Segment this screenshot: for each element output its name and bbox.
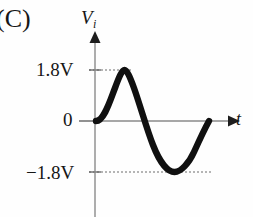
tick-label-positive: 1.8V — [36, 60, 73, 79]
tick-label-zero: 0 — [63, 110, 73, 129]
y-axis-arrowhead — [90, 31, 101, 43]
x-axis-label: t — [236, 110, 241, 128]
panel-label: (C) — [0, 6, 31, 32]
y-axis-label-symbol: V — [81, 7, 93, 28]
waveform-figure: (C) Vi t 1.8V 0 −1.8V — [0, 0, 253, 217]
y-axis-label-subscript: i — [93, 17, 96, 31]
y-axis-label: Vi — [81, 8, 96, 30]
waveform-plot — [0, 0, 253, 217]
tick-label-negative: −1.8V — [26, 163, 74, 182]
